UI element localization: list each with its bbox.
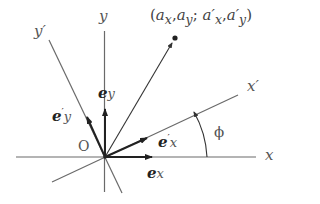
e-y-prime-vector (87, 117, 105, 157)
origin-point (103, 155, 107, 159)
angle-label: ϕ (214, 125, 224, 140)
x-prime-axis-label: x′ (247, 79, 259, 94)
e-y-label: ey (98, 86, 115, 101)
e-x-label: ex (147, 166, 164, 181)
x-axis-label: x (265, 148, 273, 163)
e-x-prime-vector (105, 138, 147, 157)
y-axis-label: y (99, 9, 107, 24)
angle-arc (194, 112, 207, 157)
point-coordinates-label: (ax,ay; a′x,a′y) (150, 8, 252, 27)
origin-label: O (78, 139, 89, 153)
e-y-prime-label: e′y (52, 107, 71, 124)
e-x-prime-label: e′x (158, 133, 177, 150)
point-dot (172, 35, 177, 40)
y-prime-axis-label: y′ (34, 24, 46, 39)
